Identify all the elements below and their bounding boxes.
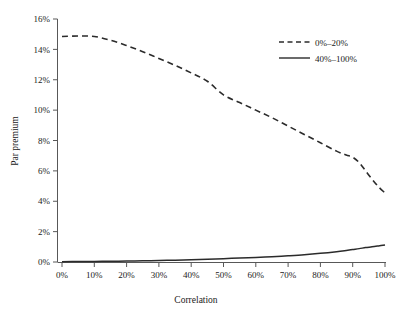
y-tick-label: 10% xyxy=(34,105,51,115)
x-tick-label: 60% xyxy=(248,270,265,280)
legend-label-0: 0%–20% xyxy=(315,38,348,48)
y-tick-label: 12% xyxy=(34,75,51,85)
y-axis-title: Par premium xyxy=(10,116,20,166)
x-tick-label: 20% xyxy=(118,270,135,280)
x-tick-label: 10% xyxy=(86,270,103,280)
y-tick-label: 6% xyxy=(38,166,51,176)
x-axis-title: Correlation xyxy=(174,295,218,305)
x-tick-label: 80% xyxy=(312,270,329,280)
x-tick-label: 100% xyxy=(375,270,397,280)
y-tick-label: 2% xyxy=(38,227,51,237)
legend-label-1: 40%–100% xyxy=(315,54,357,64)
x-tick-label: 70% xyxy=(280,270,297,280)
x-tick-label: 50% xyxy=(215,270,232,280)
x-tick-label: 90% xyxy=(344,270,361,280)
y-tick-label: 8% xyxy=(38,136,51,146)
y-tick-label: 14% xyxy=(34,45,51,55)
y-tick-label: 16% xyxy=(34,14,51,24)
x-tick-label: 0% xyxy=(56,270,69,280)
y-tick-label: 4% xyxy=(38,196,51,206)
y-tick-label: 0% xyxy=(38,257,51,267)
x-tick-label: 40% xyxy=(183,270,200,280)
par-premium-correlation-line-chart: 0%2%4%6%8%10%12%14%16% 0%10%20%30%40%50%… xyxy=(0,0,399,312)
chart-container: 0%2%4%6%8%10%12%14%16% 0%10%20%30%40%50%… xyxy=(0,0,399,312)
x-tick-label: 30% xyxy=(151,270,168,280)
